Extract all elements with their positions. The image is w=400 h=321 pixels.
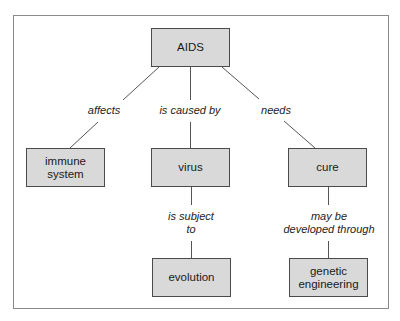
line-affects-to-immune-system bbox=[70, 122, 98, 148]
link-label-may-be-developed-through-line2: developed through bbox=[283, 223, 374, 236]
node-aids: AIDS bbox=[151, 28, 230, 67]
link-label-needs: needs bbox=[261, 104, 291, 117]
node-immune-system: immune system bbox=[26, 148, 105, 187]
line-aids-to-needs bbox=[222, 67, 259, 99]
node-cure-label: cure bbox=[316, 161, 338, 174]
node-evolution-label: evolution bbox=[168, 271, 214, 284]
line-needs-to-cure bbox=[284, 121, 315, 148]
line-aids-to-affects bbox=[123, 67, 159, 100]
node-cure: cure bbox=[288, 148, 367, 187]
node-genetic-engineering-label: genetic engineering bbox=[294, 265, 364, 291]
link-label-may-be-developed-through: may be developed through bbox=[283, 210, 374, 236]
link-label-may-be-developed-through-line1: may be bbox=[283, 210, 374, 223]
node-virus-label: virus bbox=[178, 161, 202, 174]
node-aids-label: AIDS bbox=[177, 41, 204, 54]
link-label-is-subject-to-line1: is subject bbox=[168, 210, 214, 223]
node-virus: virus bbox=[151, 148, 230, 187]
link-label-is-subject-to-line2: to bbox=[168, 223, 214, 236]
link-label-is-caused-by: is caused by bbox=[159, 104, 220, 117]
link-label-is-subject-to: is subject to bbox=[168, 210, 214, 236]
node-evolution: evolution bbox=[152, 258, 231, 297]
node-genetic-engineering: genetic engineering bbox=[289, 258, 368, 297]
node-immune-system-label: immune system bbox=[41, 155, 91, 181]
link-label-affects: affects bbox=[88, 104, 120, 117]
